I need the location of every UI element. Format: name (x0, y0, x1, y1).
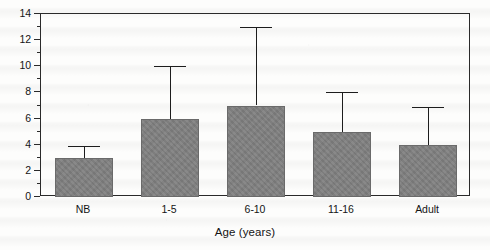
error-bar-cap (412, 107, 444, 108)
error-bar-stem (342, 92, 343, 131)
y-axis: 02468101214 (0, 0, 40, 250)
x-axis-tick-label: NB (76, 203, 91, 215)
error-bar-cap (240, 27, 272, 28)
error-bar-cap (154, 66, 186, 67)
figure-canvas: 02468101214 NB1-56-1011-16Adult Age (yea… (0, 0, 490, 250)
bar (141, 119, 199, 197)
error-bar-cap (68, 146, 100, 147)
y-axis-tick-label: 4 (25, 138, 31, 150)
bar (227, 106, 285, 198)
error-bar-stem (170, 66, 171, 118)
x-axis-title: Age (years) (0, 226, 490, 238)
plot-area (40, 13, 470, 196)
y-axis-tick-label: 12 (20, 33, 31, 45)
error-bar-cap (326, 92, 358, 93)
bar (399, 145, 457, 197)
error-bar-stem (256, 27, 257, 105)
x-axis-tick-label: 6-10 (245, 203, 266, 215)
bar (55, 158, 113, 197)
error-bar-stem (84, 146, 85, 158)
y-axis-major-tick (34, 196, 40, 197)
x-axis-tick-label: 1-5 (161, 203, 176, 215)
y-axis-tick-label: 6 (25, 112, 31, 124)
bar (313, 132, 371, 197)
y-axis-tick-label: 0 (25, 190, 31, 202)
x-axis-tick-label: Adult (415, 203, 439, 215)
error-bar-stem (428, 107, 429, 145)
y-axis-tick-label: 14 (20, 7, 31, 19)
y-axis-tick-label: 8 (25, 85, 31, 97)
x-axis-tick-label: 11-16 (328, 203, 354, 215)
y-axis-tick-label: 10 (20, 59, 31, 71)
y-axis-tick-label: 2 (25, 164, 31, 176)
